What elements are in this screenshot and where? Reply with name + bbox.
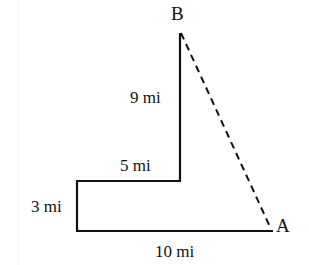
path-diagram: B A 9 mi 5 mi 3 mi 10 mi: [0, 0, 309, 265]
solid-path: [77, 33, 273, 231]
segment-label-left: 3 mi: [31, 197, 62, 216]
dashed-line-a-b: [181, 33, 271, 229]
segment-label-bottom: 10 mi: [155, 242, 194, 261]
point-label-a: A: [276, 215, 290, 236]
diagram-canvas: B A 9 mi 5 mi 3 mi 10 mi: [0, 0, 309, 265]
segment-label-vertical: 9 mi: [130, 88, 161, 107]
point-label-b: B: [171, 3, 184, 24]
segment-label-middle: 5 mi: [120, 156, 151, 175]
